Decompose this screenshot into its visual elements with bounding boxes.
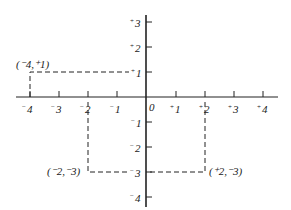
x-tick-label: −3: [51, 102, 61, 115]
point-label-neg2-neg3: (⁻2,⁻3): [47, 166, 80, 177]
y-tick-label: +2: [130, 41, 140, 54]
y-tick-label: −1: [131, 116, 141, 129]
x-tick-label: +2: [199, 102, 209, 115]
coordinate-plane-graphic: [0, 0, 291, 210]
dashed-guides: [30, 72, 205, 172]
x-tick-label: −2: [80, 102, 90, 115]
x-tick-label: +1: [170, 102, 180, 115]
x-tick-label: +3: [228, 102, 238, 115]
x-tick-label-origin: 0: [149, 102, 155, 113]
x-tick-label: +4: [257, 102, 267, 115]
y-tick-label: −4: [130, 191, 140, 204]
guide-point-neg4-pos1: [30, 72, 129, 97]
point-label-pos2-neg3: (⁺2,⁻3): [209, 166, 242, 177]
y-tick-label: −2: [130, 141, 140, 154]
x-tick-label: −4: [22, 102, 32, 115]
x-tick-label: −1: [110, 102, 120, 115]
guide-point-neg2-neg3: [88, 102, 127, 172]
y-tick-label: −3: [130, 166, 140, 179]
coordinate-plane-diagram: −4 −3 −2 −1 0 +1 +2 +3 +4 +3 +2 +1 −1 −2…: [0, 0, 291, 210]
y-tick-label: +1: [131, 66, 141, 79]
y-tick-label: +3: [130, 16, 140, 29]
point-label-neg4-pos1: (⁻4,⁺1): [16, 59, 49, 70]
